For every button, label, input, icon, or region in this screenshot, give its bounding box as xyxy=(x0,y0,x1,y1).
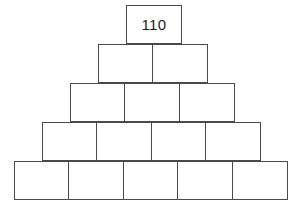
pyramid-row-1: 110 xyxy=(126,5,180,44)
number-pyramid-figure: 110 xyxy=(0,0,300,207)
pyramid-cell-r5c5[interactable] xyxy=(232,161,288,200)
pyramid-cell-r4c1[interactable] xyxy=(42,122,98,161)
pyramid-cell-r4c3[interactable] xyxy=(151,122,207,161)
pyramid-cell-r5c2[interactable] xyxy=(68,161,124,200)
pyramid-cell-r2c2[interactable] xyxy=(152,44,208,83)
pyramid-cell-r3c1[interactable] xyxy=(70,83,126,122)
pyramid-row-5 xyxy=(14,161,286,200)
pyramid-cell-r1c1[interactable]: 110 xyxy=(126,5,182,44)
pyramid-row-4 xyxy=(42,122,260,161)
pyramid-cell-value: 110 xyxy=(142,17,167,32)
pyramid-cell-r4c2[interactable] xyxy=(96,122,152,161)
pyramid-cell-r2c1[interactable] xyxy=(98,44,154,83)
pyramid-cell-r5c4[interactable] xyxy=(177,161,233,200)
pyramid-row-3 xyxy=(70,83,233,122)
pyramid-cell-r5c3[interactable] xyxy=(123,161,179,200)
pyramid-cell-r3c2[interactable] xyxy=(124,83,180,122)
pyramid-cell-r5c1[interactable] xyxy=(14,161,70,200)
pyramid-cell-r3c3[interactable] xyxy=(179,83,235,122)
pyramid-row-2 xyxy=(98,44,207,83)
pyramid-cell-r4c4[interactable] xyxy=(205,122,261,161)
